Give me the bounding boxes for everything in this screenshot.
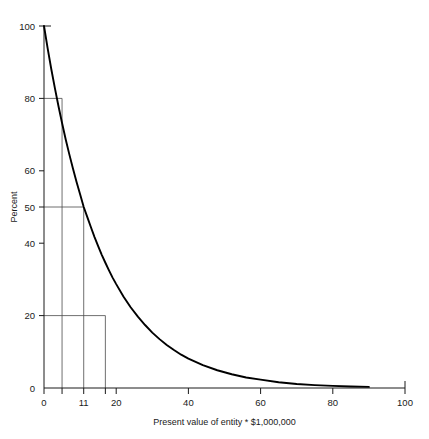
x-tick-label-100: 100 [397, 397, 413, 408]
chart-rendered-layer: 0204050608010001120406080100Present valu… [9, 21, 413, 428]
exponential-decay-chart: 0204050608010001120406080100Present valu… [0, 0, 429, 439]
x-tick-label-60: 60 [255, 397, 266, 408]
y-tick-label-80: 80 [24, 93, 35, 104]
x-tick-label-80: 80 [328, 397, 339, 408]
y-tick-label-20: 20 [24, 310, 35, 321]
x-tick-label-11: 11 [79, 397, 89, 408]
x-tick-label-0: 0 [41, 397, 46, 408]
y-tick-label-60: 60 [24, 165, 35, 176]
x-tick-label-20: 20 [111, 397, 122, 408]
y-axis-title: Percent [9, 191, 19, 223]
x-tick-label-40: 40 [183, 397, 194, 408]
y-tick-label-100: 100 [19, 21, 35, 32]
y-tick-label-0: 0 [30, 383, 35, 394]
data-curve [44, 26, 369, 387]
chart-container: 0204050608010001120406080100Present valu… [0, 0, 429, 439]
x-axis-title: Present value of entity * $1,000,000 [153, 417, 296, 427]
y-tick-label-40: 40 [24, 238, 35, 249]
y-tick-label-50: 50 [24, 202, 35, 213]
